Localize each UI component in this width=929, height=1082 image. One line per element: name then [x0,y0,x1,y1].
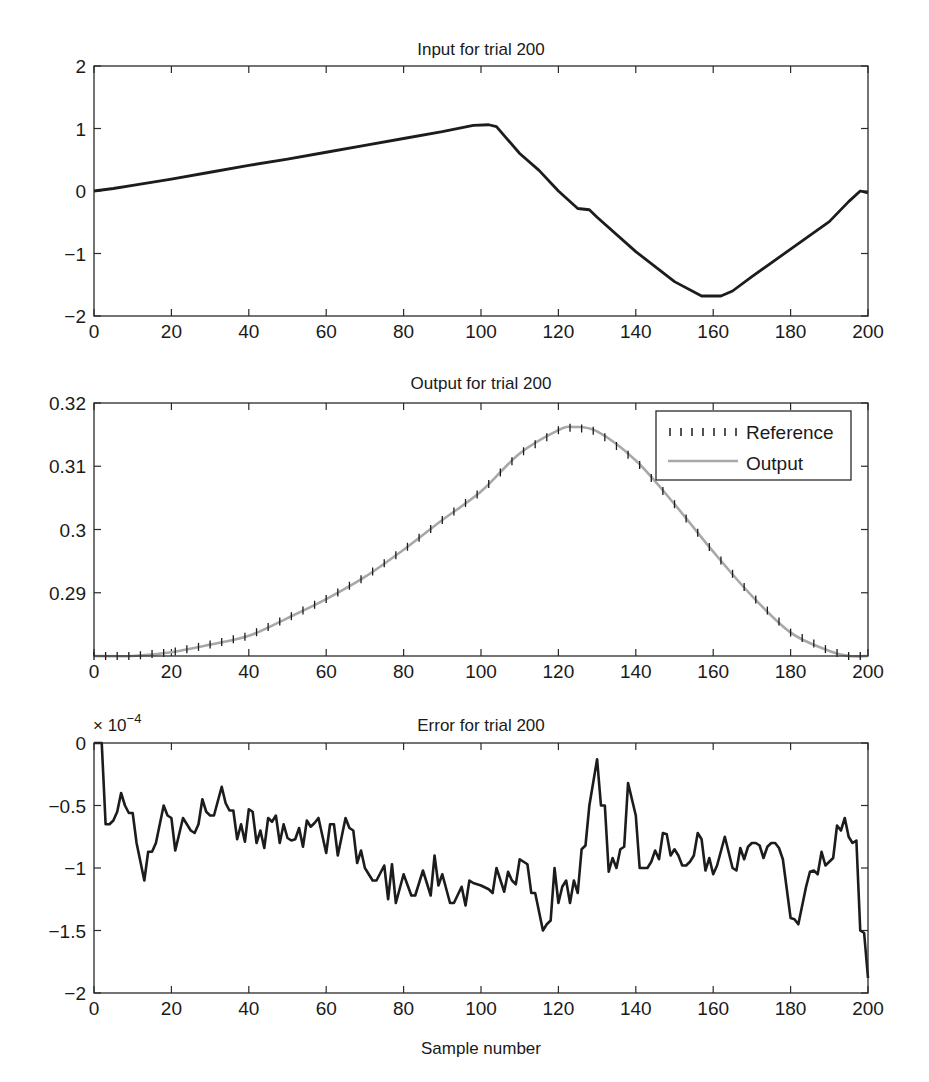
x-tick-label: 180 [775,321,807,342]
y-tick-label: −1.5 [48,921,86,942]
x-tick-label: 80 [393,661,414,682]
x-tick-label: 0 [89,998,100,1019]
x-tick-label: 140 [620,998,652,1019]
x-tick-label: 120 [543,661,575,682]
input-axis-ticks [94,66,868,316]
y-tick-label: −2 [64,983,86,1004]
x-tick-label: 60 [316,661,337,682]
legend: Reference Output [656,411,851,480]
x-tick-label: 40 [238,321,259,342]
x-tick-label: 200 [852,321,884,342]
y-tick-label: 0 [75,733,86,754]
x-tick-label: 100 [465,998,497,1019]
x-tick-label: 200 [852,661,884,682]
x-tick-label: 40 [238,661,259,682]
output-y-tick-labels: 0.320.310.30.29 [49,393,86,604]
x-tick-label: 100 [465,661,497,682]
y-tick-label: 0.29 [49,583,86,604]
x-tick-label: 0 [89,321,100,342]
error-axis-ticks [94,743,868,993]
y-tick-label: 0.3 [60,520,86,541]
y-tick-label: 0.32 [49,393,86,414]
x-tick-label: 200 [852,998,884,1019]
output-subplot: Output for trial 200 0.320.310.30.29 020… [49,374,884,682]
error-line [94,743,868,978]
x-tick-label: 120 [543,998,575,1019]
x-tick-label: 100 [465,321,497,342]
error-y-tick-labels: 0−0.5−1−1.5−2 [48,733,86,1004]
x-tick-label: 20 [161,321,182,342]
x-axis-label: Sample number [421,1039,541,1058]
x-tick-label: 160 [697,321,729,342]
x-tick-label: 40 [238,998,259,1019]
figure: Input for trial 200 210−1−2 020406080100… [0,0,929,1082]
y-tick-label: −1 [64,858,86,879]
x-tick-label: 60 [316,998,337,1019]
input-subplot: Input for trial 200 210−1−2 020406080100… [64,40,884,342]
y-tick-label: 0.31 [49,456,86,477]
x-tick-label: 180 [775,661,807,682]
error-subplot: Error for trial 200 × 10−4 0−0.5−1−1.5−2… [48,711,883,1058]
x-tick-label: 140 [620,661,652,682]
y-tick-label: 0 [75,181,86,202]
input-series-line [94,125,868,296]
y-tick-label: 1 [75,119,86,140]
x-tick-label: 20 [161,661,182,682]
input-line [94,125,868,296]
y-tick-label: −2 [64,306,86,327]
x-tick-label: 180 [775,998,807,1019]
output-plot-title: Output for trial 200 [411,374,552,393]
x-tick-label: 160 [697,998,729,1019]
legend-output-label: Output [746,453,804,474]
x-tick-label: 160 [697,661,729,682]
error-plot-title: Error for trial 200 [417,716,545,735]
error-x-tick-labels: 020406080100120140160180200 [89,998,884,1019]
x-tick-label: 120 [543,321,575,342]
input-axes-frame [94,66,868,316]
input-y-tick-labels: 210−1−2 [64,56,86,327]
x-tick-label: 80 [393,998,414,1019]
legend-reference-label: Reference [746,422,834,443]
x-tick-label: 20 [161,998,182,1019]
input-x-tick-labels: 020406080100120140160180200 [89,321,884,342]
y-tick-label: −1 [64,244,86,265]
x-tick-label: 140 [620,321,652,342]
input-plot-title: Input for trial 200 [417,40,545,59]
y-tick-label: −0.5 [48,796,86,817]
y-tick-label: 2 [75,56,86,77]
x-tick-label: 0 [89,661,100,682]
y-multiplier-label: × 10−4 [93,711,141,735]
error-axes-frame [94,743,868,993]
x-tick-label: 60 [316,321,337,342]
output-x-tick-labels: 020406080100120140160180200 [89,661,884,682]
error-series-line [94,743,868,978]
x-tick-label: 80 [393,321,414,342]
